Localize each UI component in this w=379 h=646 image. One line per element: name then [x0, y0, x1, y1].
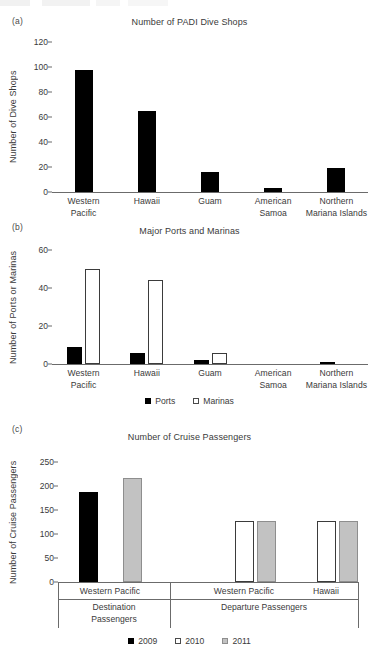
panel-c-legend: 200920102011	[0, 636, 379, 646]
panel-c-plot-area: 050100150200250	[58, 462, 358, 582]
panel-a-x-axis-line	[52, 192, 368, 193]
y-tick-mark	[48, 117, 52, 118]
group-divider	[358, 582, 359, 628]
y-tick-mark	[48, 250, 52, 251]
panel-a-dive-shops: (a) Number of PADI Dive Shops Number of …	[0, 16, 379, 216]
x-category-label: Western Pacific	[62, 586, 158, 598]
bar-dive-shops-3	[264, 188, 282, 192]
legend-swatch-icon	[222, 638, 228, 644]
legend-label: 2011	[232, 636, 250, 646]
x-category-label: NorthernMariana Islands	[297, 368, 375, 391]
panel-a-plot-area: 020406080100120	[52, 42, 368, 192]
y-tick-mark	[54, 486, 58, 487]
y-tick-mark	[48, 167, 52, 168]
group-label: Departure Passengers	[170, 602, 358, 614]
x-category-line: Northern	[297, 196, 375, 208]
group-label-line: Departure Passengers	[170, 602, 358, 614]
legend-label: Ports	[155, 396, 175, 406]
bar-2011-0	[123, 478, 142, 582]
bar-marinas-0	[85, 269, 100, 364]
x-category-line: Northern	[297, 368, 375, 380]
y-tick-mark	[54, 462, 58, 463]
panel-a-y-ticks: 020406080100120	[52, 42, 368, 192]
legend-swatch-icon	[128, 638, 134, 644]
bar-2009-0	[79, 492, 98, 582]
panel-c-y-axis-label: Number of Cruise Passengers	[8, 440, 18, 604]
bar-ports-2	[194, 360, 209, 364]
bar-marinas-2	[212, 353, 227, 364]
bar-ports-1	[130, 353, 145, 364]
legend-item-2009: 2009	[128, 636, 157, 646]
y-tick-mark	[48, 92, 52, 93]
y-tick-mark	[48, 142, 52, 143]
y-tick-mark	[48, 326, 52, 327]
panel-c-cruise-passengers: (c) Number of Cruise Passengers Number o…	[0, 424, 379, 638]
legend-label: 2009	[138, 636, 157, 646]
legend-item-marinas: Marinas	[193, 396, 234, 406]
bar-2010-1	[235, 521, 254, 582]
panel-b-plot-area: 0204060	[52, 250, 368, 364]
legend-swatch-icon	[145, 398, 151, 404]
bar-2011-2	[339, 521, 358, 582]
x-category-line: Hawaii	[278, 586, 374, 598]
y-tick-mark	[48, 288, 52, 289]
bar-2011-1	[257, 521, 276, 582]
x-category-label: Hawaii	[278, 586, 374, 598]
y-tick-mark	[54, 510, 58, 511]
x-category-line: Western Pacific	[62, 586, 158, 598]
group-label: DestinationPassengers	[58, 602, 170, 625]
y-tick-mark	[48, 67, 52, 68]
bar-2010-2	[317, 521, 336, 582]
x-category-line: Mariana Islands	[297, 380, 375, 392]
group-axis-line	[58, 599, 358, 600]
legend-swatch-icon	[175, 638, 181, 644]
panel-c-title: Number of Cruise Passengers	[0, 432, 379, 442]
bar-dive-shops-4	[327, 168, 345, 192]
bar-dive-shops-2	[201, 172, 219, 192]
x-category-line: Mariana Islands	[297, 208, 375, 220]
panel-b-y-axis-label: Number of Ports or Marinas	[8, 246, 18, 368]
bar-marinas-1	[148, 280, 163, 364]
panel-b-ports-marinas: (b) Major Ports and Marinas Number of Po…	[0, 222, 379, 418]
legend-item-2011: 2011	[222, 636, 250, 646]
x-category-line: Pacific	[45, 380, 123, 392]
panel-c-y-ticks: 050100150200250	[58, 462, 358, 582]
bar-dive-shops-1	[138, 111, 156, 192]
y-tick-mark	[54, 534, 58, 535]
group-label-line: Destination	[58, 602, 170, 614]
legend-item-ports: Ports	[145, 396, 175, 406]
panel-b-title: Major Ports and Marinas	[0, 226, 379, 236]
bar-dive-shops-0	[75, 70, 93, 193]
panel-b-legend: PortsMarinas	[0, 396, 379, 406]
panel-a-title: Number of PADI Dive Shops	[0, 17, 379, 27]
x-category-label: NorthernMariana Islands	[297, 196, 375, 219]
legend-label: 2010	[185, 636, 204, 646]
bar-ports-4	[320, 362, 335, 364]
panel-c-x-axis-line	[58, 582, 358, 583]
panel-b-x-axis-line	[52, 364, 368, 365]
scan-artifact	[0, 0, 379, 6]
bar-ports-0	[67, 347, 82, 364]
legend-swatch-icon	[193, 398, 199, 404]
group-label-line: Passengers	[58, 614, 170, 626]
legend-item-2010: 2010	[175, 636, 204, 646]
panel-a-y-axis-label: Number of Dive Shops	[8, 42, 18, 192]
x-category-line: Pacific	[45, 208, 123, 220]
y-tick-mark	[48, 42, 52, 43]
legend-label: Marinas	[203, 396, 234, 406]
y-tick-mark	[54, 558, 58, 559]
